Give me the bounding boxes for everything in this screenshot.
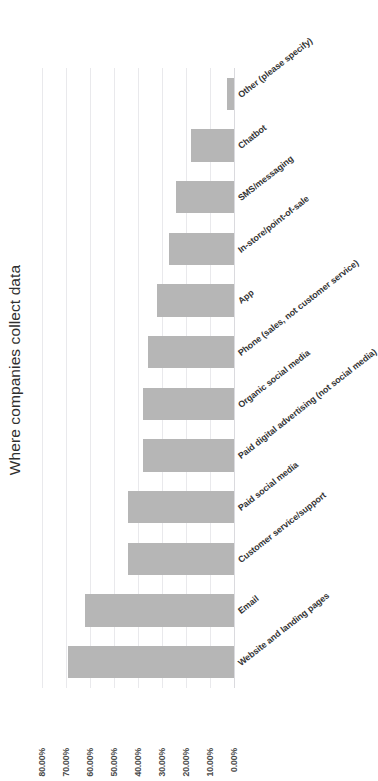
y-axis-tick-label: 50.00% — [109, 748, 119, 777]
bar — [85, 595, 234, 627]
y-axis-tick-label: 0.00% — [229, 748, 239, 772]
x-axis-category-label: SMS/messaging — [236, 154, 295, 203]
y-axis-tick-label: 10.00% — [205, 748, 215, 777]
y-axis-tick-label: 60.00% — [85, 748, 95, 777]
bar — [148, 336, 234, 368]
y-axis-tick-label: 40.00% — [133, 748, 143, 777]
x-axis-category-label: Email — [236, 594, 261, 616]
x-axis-category-label: Phone (sales, not customer service) — [236, 258, 360, 358]
x-axis-category-label: App — [236, 288, 256, 306]
y-axis-tick-labels: 80.00%70.00%60.00%50.00%40.00%30.00%20.0… — [42, 744, 234, 781]
bar — [143, 388, 234, 420]
x-axis-category-label: Other (please specify) — [236, 35, 314, 99]
chart-title: Where companies collect data — [6, 0, 24, 740]
bar — [227, 78, 234, 110]
bar — [169, 233, 234, 265]
x-axis-category-label: Paid digital advertising (not social med… — [236, 347, 378, 461]
y-axis-tick-label: 70.00% — [61, 748, 71, 777]
bar — [128, 491, 234, 523]
plot-area — [42, 68, 234, 688]
bar-series — [42, 68, 234, 688]
bar — [157, 285, 234, 317]
y-axis-tick-label: 80.00% — [37, 748, 47, 777]
y-axis-tick-label: 30.00% — [157, 748, 167, 777]
bar — [176, 181, 234, 213]
x-axis-category-label: In-store/point-of-sale — [236, 193, 311, 255]
x-axis-category-label: Organic social media — [236, 347, 312, 409]
bar — [128, 543, 234, 575]
bar — [68, 646, 234, 678]
x-axis-category-label: Paid social media — [236, 460, 300, 513]
y-axis-tick-label: 20.00% — [181, 748, 191, 777]
bar — [143, 440, 234, 472]
x-axis-category-label: Chatbot — [236, 123, 268, 151]
x-axis-category-labels: Website and landing pagesEmailCustomer s… — [234, 68, 346, 688]
bar — [191, 130, 234, 162]
